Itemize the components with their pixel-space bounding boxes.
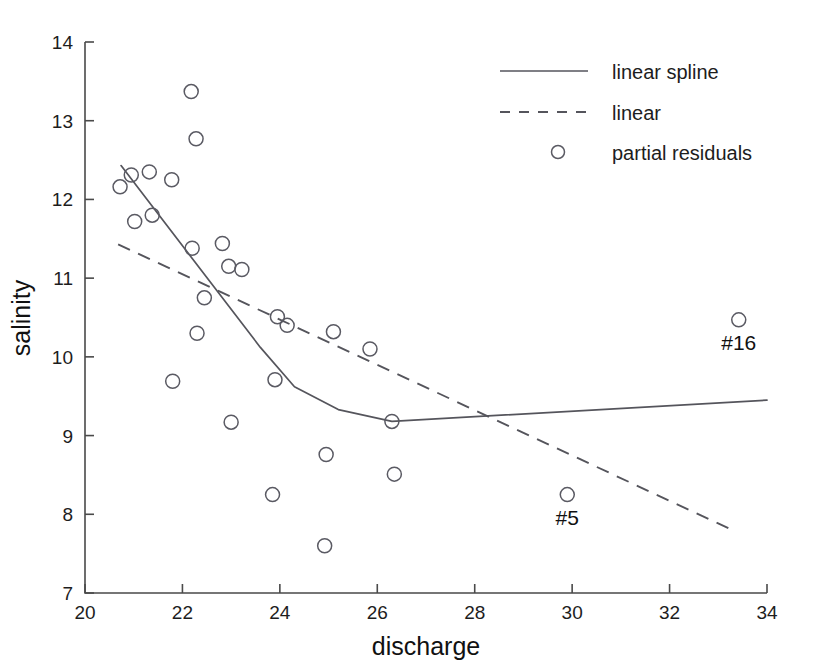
x-axis-tick-labels: 2022242628303234: [74, 602, 778, 623]
data-point-marker: [113, 180, 127, 194]
data-point-marker: [222, 259, 236, 273]
data-point-marker: [280, 318, 294, 332]
data-point-marker: [215, 237, 229, 251]
data-point-marker: [732, 313, 746, 327]
x-tick-label: 22: [172, 602, 193, 623]
y-tick-label: 9: [62, 426, 73, 447]
linear-spline-fit-line: [121, 166, 767, 422]
x-tick-label: 26: [367, 602, 388, 623]
data-point-marker: [185, 241, 199, 255]
data-point-marker: [363, 342, 377, 356]
data-point-marker: [190, 326, 204, 340]
data-point-marker: [318, 539, 332, 553]
x-axis-ticks: [85, 584, 767, 593]
x-tick-label: 30: [562, 602, 583, 623]
data-point-marker: [270, 310, 284, 324]
y-tick-label: 11: [53, 268, 73, 289]
x-tick-label: 20: [74, 602, 95, 623]
axis-group: [85, 42, 767, 593]
y-axis-tick-labels: 7891011121314: [52, 32, 74, 604]
x-tick-label: 28: [464, 602, 485, 623]
y-tick-label: 7: [62, 583, 73, 604]
data-point-marker: [184, 85, 198, 99]
axis-spines: [85, 42, 767, 593]
point-annotations: #5#16: [556, 331, 757, 529]
y-tick-label: 10: [52, 347, 73, 368]
y-tick-label: 14: [52, 32, 74, 53]
point-annotation-label: #16: [721, 331, 756, 354]
legend-label-partial-residuals: partial residuals: [612, 142, 752, 164]
legend-label-linear: linear: [612, 102, 661, 124]
data-point-marker: [560, 488, 574, 502]
point-annotation-label: #5: [556, 506, 579, 529]
x-tick-label: 24: [269, 602, 291, 623]
y-tick-label: 8: [62, 504, 73, 525]
legend-label-linear-spline: linear spline: [612, 61, 719, 83]
data-point-marker: [268, 373, 282, 387]
data-point-marker: [266, 488, 280, 502]
data-point-marker: [166, 374, 180, 388]
data-point-marker: [319, 447, 333, 461]
data-point-marker: [142, 165, 156, 179]
legend: linear spline linear partial residuals: [500, 61, 752, 164]
scatter-plot-canvas: 2022242628303234 7891011121314 discharge…: [0, 0, 825, 672]
data-point-marker: [224, 415, 238, 429]
y-tick-label: 12: [52, 189, 73, 210]
data-point-marker: [387, 467, 401, 481]
data-point-marker: [189, 132, 203, 146]
x-tick-label: 34: [756, 602, 778, 623]
data-point-marker: [197, 291, 211, 305]
linear-fit-line: [118, 244, 729, 528]
data-point-marker: [128, 214, 142, 228]
x-tick-label: 32: [659, 602, 680, 623]
data-point-marker: [235, 262, 249, 276]
chart-figure: 2022242628303234 7891011121314 discharge…: [0, 0, 825, 672]
x-axis-title: discharge: [372, 632, 480, 660]
y-tick-label: 13: [52, 111, 73, 132]
data-point-marker: [165, 173, 179, 187]
y-axis-title: salinity: [7, 279, 35, 356]
data-point-marker: [145, 208, 159, 222]
data-point-marker: [326, 325, 340, 339]
y-axis-ticks: [85, 42, 94, 593]
legend-swatch-partial-residuals: [552, 146, 565, 159]
